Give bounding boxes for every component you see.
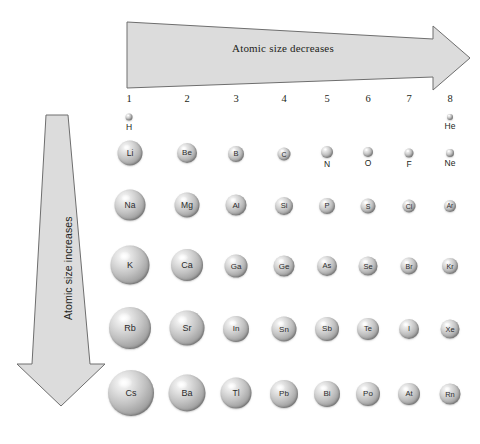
atom-sphere-ca: Ca <box>171 249 203 281</box>
atom-rn: Rn <box>440 384 461 405</box>
column-number-4: 4 <box>281 93 286 104</box>
atom-symbol-cl: Cl <box>406 203 413 210</box>
atom-br: Br <box>401 258 418 275</box>
atom-symbol-s: S <box>366 203 371 210</box>
atom-symbol-be: Be <box>182 149 192 157</box>
atom-symbol-te: Te <box>364 325 372 333</box>
atom-sphere-n <box>321 146 333 158</box>
atom-c: C <box>278 148 291 161</box>
atom-sphere-kr: Kr <box>442 258 458 274</box>
atom-sphere-po: Po <box>356 382 380 406</box>
atom-sphere-mg: Mg <box>175 193 200 218</box>
atom-symbol-ge: Ge <box>279 262 290 270</box>
atom-symbol-h: H <box>126 123 132 132</box>
atom-k: K <box>111 246 150 285</box>
atom-symbol-as: As <box>323 262 332 270</box>
atom-symbol-ga: Ga <box>231 262 242 270</box>
atom-symbol-tl: Tl <box>232 389 239 398</box>
atom-cl: Cl <box>403 200 416 213</box>
atom-be: Be <box>177 143 197 163</box>
atom-symbol-sr: Sr <box>183 324 192 333</box>
atomic-size-decreases-label: Atomic size decreases <box>232 42 334 54</box>
atom-sphere-te: Te <box>357 318 379 340</box>
atom-symbol-o: O <box>365 159 372 168</box>
atom-mg: Mg <box>175 193 200 218</box>
atom-sphere-br: Br <box>401 258 418 275</box>
atom-sphere-f <box>405 149 414 158</box>
atom-sphere-h <box>126 114 133 121</box>
atom-sphere-si: Si <box>275 197 293 215</box>
atom-sphere-bi: Bi <box>314 381 340 407</box>
column-number-1: 1 <box>126 93 131 104</box>
atom-symbol-si: Si <box>281 202 288 210</box>
atom-symbol-pb: Pb <box>279 390 289 398</box>
atom-symbol-mg: Mg <box>181 201 193 210</box>
atom-symbol-b: B <box>233 150 238 158</box>
atom-symbol-po: Po <box>363 390 373 398</box>
atom-sphere-k: K <box>111 246 150 285</box>
atom-po: Po <box>356 382 380 406</box>
atom-sphere-al: Al <box>226 195 247 216</box>
column-number-3: 3 <box>233 93 238 104</box>
atom-al: Al <box>226 195 247 216</box>
atom-symbol-ca: Ca <box>181 261 193 270</box>
atom-sphere-as: As <box>317 256 337 276</box>
atom-se: Se <box>359 257 378 276</box>
atom-sphere-be: Be <box>177 143 197 163</box>
atom-sphere-at: At <box>398 383 420 405</box>
atom-ar: Ar <box>444 200 456 212</box>
column-number-5: 5 <box>324 93 329 104</box>
atom-at: At <box>398 383 420 405</box>
atom-ga: Ga <box>225 255 248 278</box>
atom-symbol-p: P <box>324 202 329 210</box>
atom-sphere-rb: Rb <box>109 307 151 349</box>
column-number-2: 2 <box>184 93 189 104</box>
column-number-7: 7 <box>406 93 411 104</box>
atom-symbol-i: I <box>408 325 410 333</box>
atom-tl: Tl <box>221 378 252 409</box>
atom-rb: Rb <box>109 307 151 349</box>
atom-symbol-ne: Ne <box>445 159 456 168</box>
atom-sphere-c: C <box>278 148 291 161</box>
atom-ge: Ge <box>274 256 295 277</box>
atomic-size-increases-label: Atomic size increases <box>62 160 74 320</box>
atom-o: O <box>363 147 373 157</box>
atom-sphere-i: I <box>399 319 419 339</box>
atom-n: N <box>321 146 333 158</box>
atom-as: As <box>317 256 337 276</box>
atom-p: P <box>319 198 335 214</box>
atom-symbol-se: Se <box>363 262 372 270</box>
atom-ne: Ne <box>446 149 454 157</box>
atom-sphere-b: B <box>228 146 244 162</box>
column-number-8: 8 <box>447 93 452 104</box>
atom-i: I <box>399 319 419 339</box>
atom-sphere-sr: Sr <box>170 311 205 346</box>
atom-symbol-at: At <box>405 390 412 398</box>
atom-cs: Cs <box>108 370 154 416</box>
atom-sphere-o <box>363 147 373 157</box>
atom-sphere-ba: Ba <box>169 375 206 412</box>
atom-si: Si <box>275 197 293 215</box>
atom-symbol-sn: Sn <box>279 325 289 333</box>
atomic-size-figure: Atomic size decreases Atomic size increa… <box>0 0 480 444</box>
atom-sr: Sr <box>170 311 205 346</box>
atom-ba: Ba <box>169 375 206 412</box>
atom-sphere-tl: Tl <box>221 378 252 409</box>
atom-sn: Sn <box>272 317 297 342</box>
atom-bi: Bi <box>314 381 340 407</box>
atom-symbol-kr: Kr <box>447 263 454 270</box>
atom-te: Te <box>357 318 379 340</box>
atom-symbol-sb: Sb <box>322 325 332 333</box>
atom-sphere-na: Na <box>115 190 146 221</box>
atom-he: He <box>447 114 453 120</box>
atom-symbol-al: Al <box>232 201 239 209</box>
atom-sphere-ga: Ga <box>225 255 248 278</box>
atom-symbol-xe: Xe <box>445 325 454 333</box>
atom-symbol-c: C <box>281 151 286 158</box>
atom-sphere-rn: Rn <box>440 384 461 405</box>
atom-symbol-ba: Ba <box>181 389 192 398</box>
atom-xe: Xe <box>441 320 460 339</box>
atom-f: F <box>405 149 414 158</box>
atom-symbol-rb: Rb <box>124 324 136 333</box>
atom-sphere-xe: Xe <box>441 320 460 339</box>
